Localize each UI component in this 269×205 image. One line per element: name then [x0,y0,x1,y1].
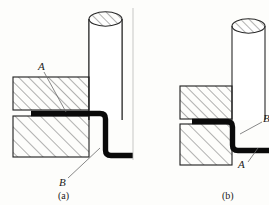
upper-block-rect-a [13,77,89,110]
cylinder-top-ellipse-b [232,19,265,33]
upper-die-block-a [13,77,89,110]
caption-panel-a: (a) [58,190,69,202]
technical-diagram-svg: A B (a) B A [0,0,269,205]
punch-cylinder-a [89,12,122,120]
cylinder-top-ellipse-a [89,12,122,26]
punch-cylinder-b [232,19,265,120]
label-A-panel-a: A [37,60,45,72]
label-B-panel-a: B [59,176,66,188]
label-A-panel-b: A [237,158,245,170]
caption-panel-b: (b) [222,190,234,202]
cylinder-body-fill-b [232,26,265,120]
figure-root: A B (a) B A [0,0,269,205]
label-B-panel-b: B [263,112,269,124]
lower-block-rect-b [180,124,232,165]
upper-block-rect-b [180,86,232,119]
lower-die-block-a [13,116,89,157]
lower-block-rect-a [13,116,89,157]
cylinder-body-fill-a [89,19,122,120]
